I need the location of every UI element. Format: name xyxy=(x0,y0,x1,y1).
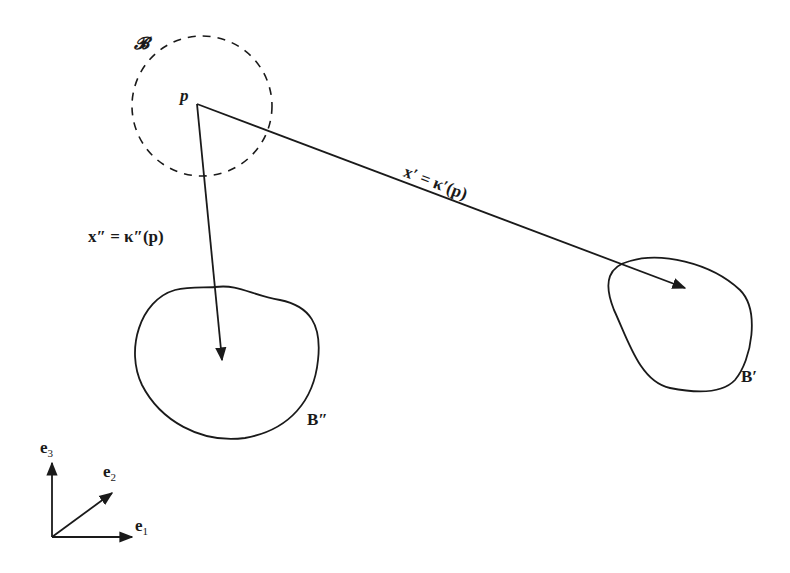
basis-e3-index: 3 xyxy=(48,447,54,459)
basis-label-e2: e2 xyxy=(103,462,116,483)
basis-e2-index: 2 xyxy=(111,471,117,483)
basis-arrow-e2 xyxy=(52,493,112,537)
mapping-arrow-kappa-double-prime xyxy=(197,104,222,360)
basis-e1-index: 1 xyxy=(143,525,149,537)
configuration-b-prime-shape xyxy=(608,258,751,392)
basis-label-e3: e3 xyxy=(40,438,53,459)
configuration-b-double-prime-shape xyxy=(135,286,319,438)
point-p-label: p xyxy=(180,86,189,106)
basis-e2-letter: e xyxy=(103,462,111,481)
configuration-b-prime-label: B′ xyxy=(741,367,757,387)
basis-label-e1: e1 xyxy=(135,516,148,537)
configuration-b-double-prime-label: B″ xyxy=(307,410,328,430)
diagram-canvas xyxy=(0,0,790,573)
mapping-label-kappa-double-prime: x″ = κ″(p) xyxy=(88,227,164,247)
basis-e3-letter: e xyxy=(40,438,48,457)
basis-e1-letter: e xyxy=(135,516,143,535)
reference-body-label: 𝓑 xyxy=(134,34,149,54)
